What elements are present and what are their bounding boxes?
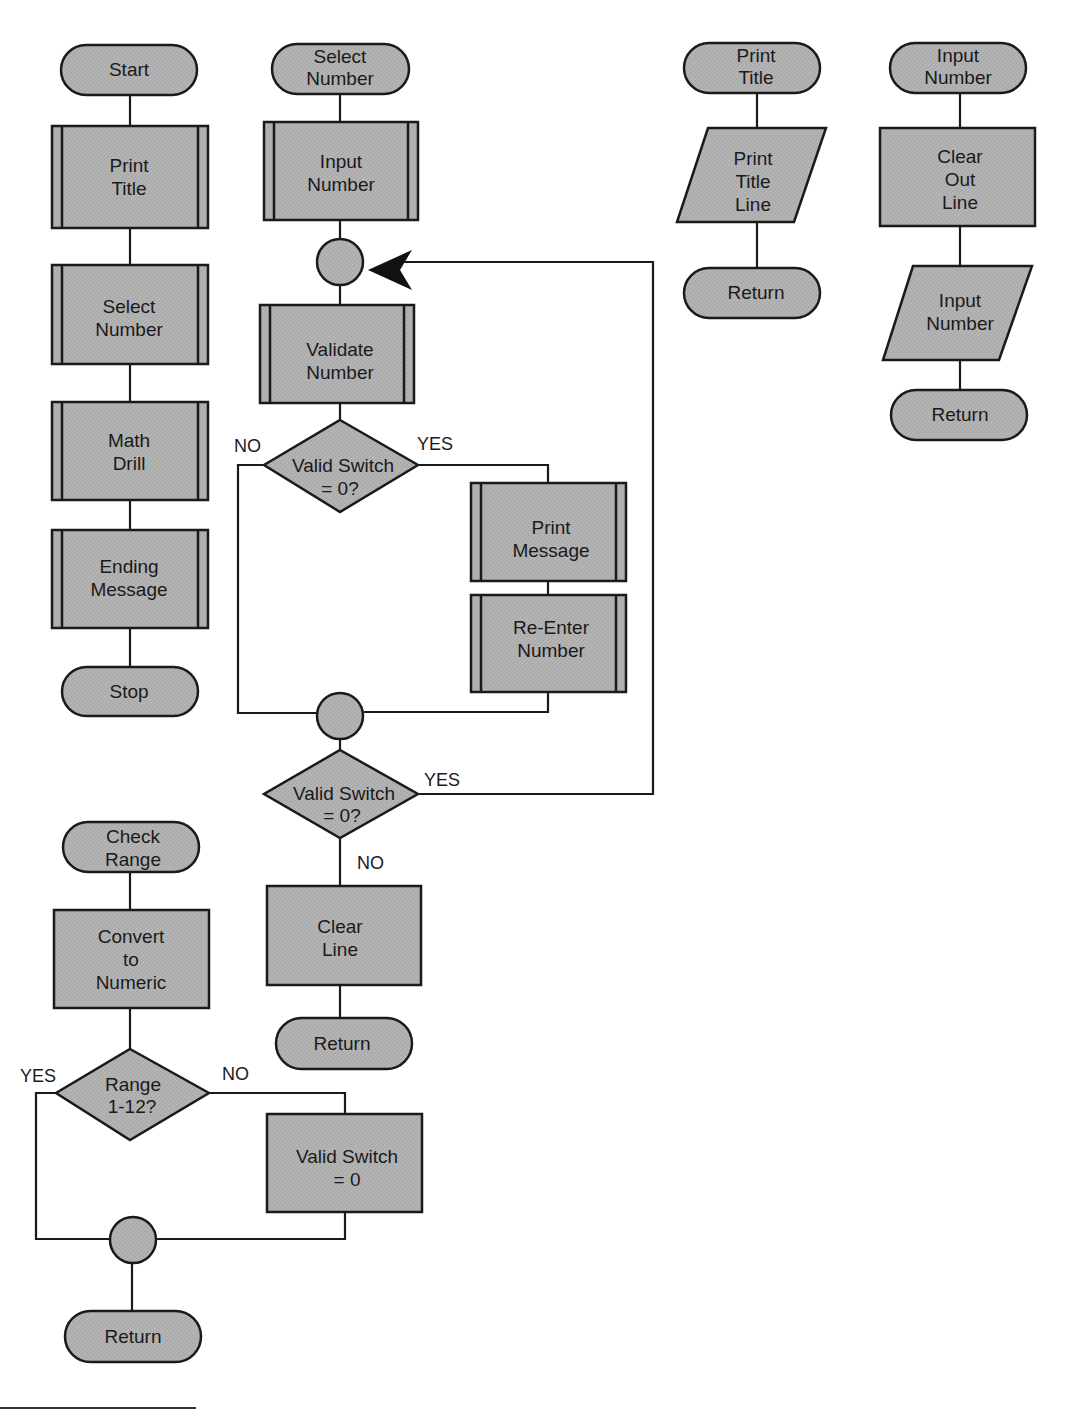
process-select-number[interactable]: Select Number [52, 265, 208, 364]
set-valid-switch-label-line2: = 0 [334, 1169, 361, 1190]
clear-out-line-label-line1: Clear [937, 146, 983, 167]
print-title-line-label-line3: Line [735, 194, 771, 215]
select-number-label-line1: Select [103, 296, 157, 317]
math-drill-label-line2: Drill [113, 453, 146, 474]
range-yes-label: YES [20, 1066, 56, 1086]
valid-switch-to-junction-path [156, 1212, 345, 1239]
decision-valid-switch-2[interactable]: Valid Switch = 0? [264, 750, 418, 838]
validate-number-label-line1: Validate [306, 339, 373, 360]
range-junction-connector[interactable] [110, 1217, 156, 1263]
terminal-input-number-label-line1: Input [937, 45, 980, 66]
input-number-module: Input Number Clear Out Line Input Number… [880, 43, 1035, 440]
input-number-label-line1: Input [320, 151, 363, 172]
clear-line-label-line2: Line [322, 939, 358, 960]
process-reenter-number[interactable]: Re-Enter Number [471, 595, 626, 692]
process-math-drill[interactable]: Math Drill [52, 402, 208, 500]
reenter-to-junction-path [364, 692, 548, 712]
print-title-label-line2: Title [111, 178, 146, 199]
reenter-number-label-line1: Re-Enter [513, 617, 590, 638]
range-no-path [209, 1093, 345, 1114]
terminal-input-number[interactable]: Input Number [890, 43, 1026, 93]
return-label: Return [727, 282, 784, 303]
decision1-yes-label: YES [417, 434, 453, 454]
terminal-select-number[interactable]: Select Number [272, 44, 409, 94]
math-drill-label-line1: Math [108, 430, 150, 451]
process-print-title[interactable]: Print Title [52, 126, 208, 228]
convert-label-line1: Convert [98, 926, 165, 947]
io-input-number-label-line2: Number [926, 313, 994, 334]
decision2-yes-label: YES [424, 770, 460, 790]
input-number-label-line2: Number [307, 174, 375, 195]
set-valid-switch-label-line1: Valid Switch [296, 1146, 398, 1167]
print-message-label-line1: Print [531, 517, 571, 538]
loop-arrowhead-icon [368, 250, 412, 290]
return-label: Return [931, 404, 988, 425]
decision1-label-line1: Valid Switch [292, 455, 394, 476]
range-decision-label-line2: 1-12? [108, 1096, 157, 1117]
terminal-stop[interactable]: Stop [62, 667, 198, 716]
print-title-module: Print Title Print Title Line Return [677, 43, 826, 318]
flowchart-canvas: Start Print Title Select Number Math Dri… [0, 0, 1070, 1423]
io-input-number-label-line1: Input [939, 290, 982, 311]
decision1-label-line2: = 0? [321, 478, 359, 499]
ending-message-label-line1: Ending [99, 556, 158, 577]
process-ending-message[interactable]: Ending Message [52, 530, 208, 628]
terminal-return-select-number[interactable]: Return [276, 1018, 412, 1069]
decision1-yes-path [418, 465, 548, 483]
decision1-no-path [238, 465, 316, 713]
select-number-label-line2: Number [95, 319, 163, 340]
process-set-valid-switch[interactable]: Valid Switch = 0 [267, 1114, 422, 1212]
terminal-check-range-label-line2: Range [105, 849, 161, 870]
terminal-return-print-title[interactable]: Return [684, 268, 820, 318]
clear-out-line-label-line2: Out [945, 169, 976, 190]
print-message-label-line2: Message [512, 540, 589, 561]
terminal-check-range-label-line1: Check [106, 826, 160, 847]
loop-junction-connector[interactable] [317, 239, 363, 285]
main-module: Start Print Title Select Number Math Dri… [52, 45, 208, 716]
terminal-check-range[interactable]: Check Range [63, 822, 199, 872]
process-print-message[interactable]: Print Message [471, 483, 626, 581]
return-label: Return [104, 1326, 161, 1347]
decision2-label-line1: Valid Switch [293, 783, 395, 804]
decision-range-1-12[interactable]: Range 1-12? [56, 1049, 209, 1140]
decision-valid-switch-1[interactable]: Valid Switch = 0? [264, 420, 418, 512]
ending-message-label-line2: Message [90, 579, 167, 600]
range-no-label: NO [222, 1064, 249, 1084]
clear-out-line-label-line3: Line [942, 192, 978, 213]
process-convert-to-numeric[interactable]: Convert to Numeric [54, 910, 209, 1008]
terminal-print-title-label-line2: Title [738, 67, 773, 88]
select-number-module: Select Number Input Number Validate Numb… [234, 44, 653, 1069]
terminal-select-number-label-line2: Number [306, 68, 374, 89]
terminal-return-check-range[interactable]: Return [65, 1311, 201, 1362]
io-input-number[interactable]: Input Number [883, 266, 1032, 360]
print-title-line-label-line2: Title [735, 171, 770, 192]
process-input-number[interactable]: Input Number [264, 122, 418, 220]
print-title-line-label-line1: Print [733, 148, 773, 169]
terminal-stop-label: Stop [109, 681, 148, 702]
terminal-print-title-label-line1: Print [736, 45, 776, 66]
range-decision-label-line1: Range [105, 1074, 161, 1095]
process-clear-out-line[interactable]: Clear Out Line [880, 128, 1035, 226]
decision2-label-line2: = 0? [323, 805, 361, 826]
io-print-title-line[interactable]: Print Title Line [677, 128, 826, 222]
terminal-print-title[interactable]: Print Title [684, 43, 820, 93]
terminal-return-input-number[interactable]: Return [891, 390, 1027, 440]
terminal-select-number-label-line1: Select [314, 46, 368, 67]
clear-line-label-line1: Clear [317, 916, 363, 937]
decision1-no-label: NO [234, 436, 261, 456]
terminal-input-number-label-line2: Number [924, 67, 992, 88]
merge-junction-connector[interactable] [317, 693, 363, 739]
terminal-start-label: Start [109, 59, 150, 80]
terminal-start[interactable]: Start [61, 45, 197, 95]
validate-number-label-line2: Number [306, 362, 374, 383]
reenter-number-label-line2: Number [517, 640, 585, 661]
process-validate-number[interactable]: Validate Number [260, 305, 414, 403]
convert-label-line3: Numeric [96, 972, 167, 993]
process-clear-line[interactable]: Clear Line [267, 886, 421, 985]
convert-label-line2: to [123, 949, 139, 970]
return-label: Return [313, 1033, 370, 1054]
decision2-no-label: NO [357, 853, 384, 873]
print-title-label-line1: Print [109, 155, 149, 176]
